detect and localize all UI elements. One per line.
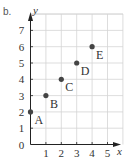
data-point-c: C	[59, 77, 74, 95]
y-axis-label: y	[32, 4, 38, 16]
scatter-chart: b. 01234567 12345 y x ABCDE	[0, 0, 126, 160]
point-marker-icon	[43, 93, 48, 98]
point-marker-icon	[74, 60, 79, 65]
x-tick-label: 4	[89, 147, 95, 159]
y-tick-label: 3	[19, 90, 25, 102]
y-tick-label: 6	[19, 41, 25, 53]
y-tick-label: 0	[19, 139, 25, 151]
point-label: A	[35, 113, 44, 127]
part-label: b.	[3, 6, 11, 17]
point-label: B	[50, 97, 58, 111]
y-tick-label: 7	[19, 24, 25, 36]
y-tick-label: 1	[19, 122, 25, 134]
x-tick-labels: 12345	[43, 147, 111, 159]
point-marker-icon	[28, 109, 33, 114]
x-tick-label: 2	[59, 147, 65, 159]
x-tick-label: 3	[74, 147, 80, 159]
y-tick-label: 5	[19, 57, 25, 69]
point-marker-icon	[90, 44, 95, 49]
y-tick-label: 4	[19, 73, 25, 85]
data-point-b: B	[43, 93, 58, 111]
y-tick-labels: 01234567	[19, 24, 25, 150]
data-point-e: E	[90, 44, 104, 62]
point-label: C	[65, 80, 73, 94]
point-label: D	[81, 64, 90, 78]
y-tick-label: 2	[19, 106, 25, 118]
x-tick-label: 1	[43, 147, 49, 159]
x-axis-label: x	[116, 145, 122, 157]
point-label: E	[96, 48, 103, 62]
point-marker-icon	[59, 77, 64, 82]
x-tick-label: 5	[105, 147, 111, 159]
grid	[31, 14, 124, 145]
